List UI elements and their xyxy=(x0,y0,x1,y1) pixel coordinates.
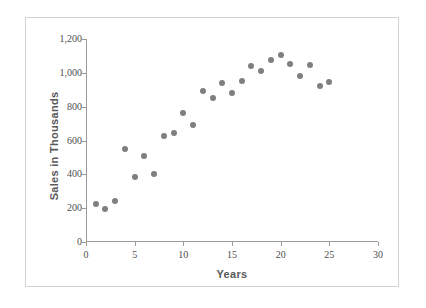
y-axis-tick-mark xyxy=(82,73,86,74)
data-point xyxy=(171,130,177,136)
data-point xyxy=(93,201,99,207)
x-axis-tick-label: 15 xyxy=(217,250,247,260)
y-axis-tick-mark xyxy=(82,141,86,142)
y-axis-tick-mark xyxy=(82,39,86,40)
x-axis-tick-label: 10 xyxy=(168,250,198,260)
x-axis-tick-label: 20 xyxy=(266,250,296,260)
y-axis-tick-label: 800 xyxy=(67,102,82,112)
y-axis-tick-label: 1,000 xyxy=(60,68,83,78)
x-axis-tick-label: 0 xyxy=(71,250,101,260)
x-axis-tick-mark xyxy=(135,242,136,246)
data-point xyxy=(122,146,128,152)
y-axis-tick-mark xyxy=(82,107,86,108)
y-axis-tick-mark xyxy=(82,208,86,209)
x-axis-tick-mark xyxy=(183,242,184,246)
plot-area xyxy=(86,39,378,242)
data-point xyxy=(239,78,245,84)
x-axis-tick-mark xyxy=(232,242,233,246)
y-axis-tick-label: 600 xyxy=(67,136,82,146)
y-axis-tick-label: 200 xyxy=(67,203,82,213)
y-axis-tick-label: 1,200 xyxy=(60,34,83,44)
x-axis-tick-mark xyxy=(281,242,282,246)
y-axis-tick-mark xyxy=(82,174,86,175)
data-point xyxy=(278,52,284,58)
y-axis-tick-label: 400 xyxy=(67,169,82,179)
x-axis-tick-mark xyxy=(86,242,87,246)
x-axis-tick-mark xyxy=(329,242,330,246)
scatter-chart: 02004006008001,0001,200 051015202530 Yea… xyxy=(0,0,426,308)
data-point xyxy=(132,174,138,180)
data-point xyxy=(317,83,323,89)
x-axis-tick-mark xyxy=(378,242,379,246)
y-axis-title: Sales in Thousands xyxy=(48,66,60,226)
x-axis-tick-label: 25 xyxy=(314,250,344,260)
x-axis-tick-label: 30 xyxy=(363,250,393,260)
x-axis-title: Years xyxy=(86,268,378,280)
x-axis-tick-label: 5 xyxy=(120,250,150,260)
data-point xyxy=(210,95,216,101)
